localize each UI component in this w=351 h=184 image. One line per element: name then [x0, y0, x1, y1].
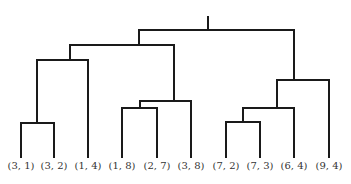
merge-root [139, 30, 294, 80]
merge-31-32 [21, 123, 54, 157]
leaf-label: (6, 4) [274, 160, 314, 171]
merge-with-94 [277, 80, 329, 157]
leaf-label: (1, 8) [102, 160, 142, 171]
merge-with-64 [243, 108, 294, 157]
merge-with-14 [37, 60, 88, 157]
dendrogram: (3, 1) (3, 2) (1, 4) (1, 8) (2, 7) (3, 8… [0, 0, 351, 184]
merge-with-38 [140, 101, 191, 157]
dendrogram-tree [0, 0, 351, 184]
leaf-label: (9, 4) [309, 160, 349, 171]
leaf-label: (3, 8) [171, 160, 211, 171]
merge-left [70, 45, 174, 101]
merge-18-27 [122, 108, 157, 157]
merge-72-73 [226, 122, 260, 157]
